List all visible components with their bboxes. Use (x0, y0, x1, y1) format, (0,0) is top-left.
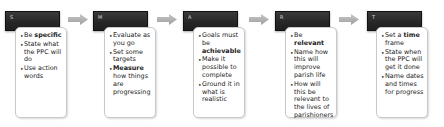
step-card-m: Evaluate as you go Set some targets Meas… (104, 27, 156, 118)
bullet: Make it possible to complete (198, 56, 242, 79)
bullet: Name dates and times for progress (381, 73, 425, 96)
bullet: Measure how things are progressing (109, 65, 153, 96)
bullet: State what the PPC will do (20, 41, 64, 64)
bullet: Ground it in what is realistic (198, 81, 242, 104)
bullet: Be specific (20, 32, 64, 40)
arrow-right-icon (249, 14, 269, 25)
bullet: Set a time frame (381, 32, 425, 48)
step-card-t: Set a time frame State when the PPC will… (376, 27, 428, 118)
step-letter: A (188, 14, 191, 20)
step-letter: T (372, 14, 375, 20)
step-letter: M (98, 14, 102, 20)
arrow-right-icon (339, 14, 359, 25)
bullet: Use action words (20, 65, 64, 81)
step-card-r: Be relevant Name how this will improve p… (285, 27, 337, 118)
step-letter: S (10, 14, 13, 20)
bullet: Goals must be achievable (198, 32, 242, 55)
step-letter: R (280, 14, 283, 20)
bullet: Evaluate as you go (109, 32, 153, 48)
step-card-s: Be specific State what the PPC will do U… (15, 27, 67, 118)
step-card-a: Goals must be achievable Make it possibl… (193, 27, 245, 118)
arrow-right-icon (68, 14, 88, 25)
bullet: Be relevant (290, 32, 334, 48)
arrow-right-icon (157, 14, 177, 25)
bullet: How will this be relevant to the lives o… (290, 81, 334, 120)
bullet: Set some targets (109, 49, 153, 65)
bullet: Name how this will improve parish life (290, 49, 334, 80)
bullet: State when the PPC will get it done (381, 49, 425, 72)
